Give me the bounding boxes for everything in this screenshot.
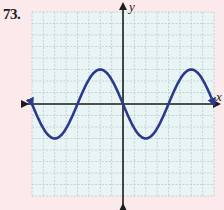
x-axis-label: x: [215, 89, 222, 104]
graph-figure: 73. y x: [0, 0, 224, 210]
sine-graph: y x: [0, 0, 224, 210]
y-axis-label: y: [127, 0, 135, 14]
